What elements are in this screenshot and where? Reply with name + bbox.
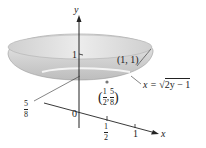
x-axis-arrowhead	[151, 130, 159, 135]
y-tick-1-label: 1	[72, 50, 77, 60]
point-1-1-label: (1, 1)	[117, 55, 139, 65]
x-axis-label: x	[161, 129, 165, 139]
y-axis-arrowhead	[77, 15, 82, 22]
point-half-five-eighths	[105, 80, 108, 83]
level-five-eighths-label: 5 8	[24, 100, 28, 119]
sqrt-symbol: √	[159, 79, 165, 90]
leader-five-eighths	[34, 76, 80, 101]
y-axis-label: y	[74, 5, 78, 15]
point-half-five-eighths-label: (12, 58)	[98, 88, 119, 107]
leader-curve-eq	[131, 76, 141, 84]
origin-label: 0	[72, 109, 77, 119]
curve-equation-label: x = √2y − 1	[143, 80, 190, 90]
diagram-canvas	[0, 0, 206, 148]
x-tick-1-label: 1	[133, 129, 138, 139]
x-tick-half-label: 1 2	[104, 123, 108, 142]
